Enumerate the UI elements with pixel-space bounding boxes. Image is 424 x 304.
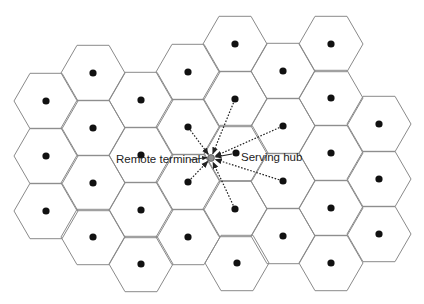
cell-hub-dot [89,124,96,131]
interference-arrow [213,162,233,205]
cell-hub-dot [231,205,238,212]
cell-hub-dot [232,149,239,156]
cell-hub-dot [231,95,238,102]
hex-cell-diagram: Remote terminal Serving hub [0,0,424,304]
cell-hub-dot [375,230,382,237]
cell-hub-dot [279,177,286,184]
cell-hub-dot [184,68,191,75]
cell-hub-dot [89,69,96,76]
cell-hub-dot [233,259,240,266]
cell-hub-dot [327,40,334,47]
cell-hub-dot [279,232,286,239]
cell-hub-dot [137,260,144,267]
cell-hub-dot [184,178,191,185]
cell-hub-dot [184,233,191,240]
cell-hub-dot [327,149,334,156]
cell-hub-dot [279,67,286,74]
cell-hub-dot [279,122,286,129]
cell-hub-dot [375,175,382,182]
cell-hub-dot [327,259,334,266]
cell-hub-dot [327,94,334,101]
cell-hub-dot [184,123,191,130]
cell-hub-dot [42,152,49,159]
hex-grid [14,16,411,291]
cell-hub-dot [137,206,144,213]
remote-terminal-marker [208,155,215,162]
cell-hub-dot [89,233,96,240]
cell-hub-dot [375,120,382,127]
remote-terminal-label: Remote terminal [116,153,200,165]
cell-hub-dot [327,204,334,211]
cell-hub-dot [89,179,96,186]
cell-sites [42,40,382,267]
cell-hub-dot [42,97,49,104]
cell-hub-dot [42,207,49,214]
interference-arrow [213,103,234,154]
serving-hub-label: Serving hub [241,151,302,163]
cell-hub-dot [231,40,238,47]
remote-terminal-dot [208,155,215,162]
cell-hub-dot [137,96,144,103]
